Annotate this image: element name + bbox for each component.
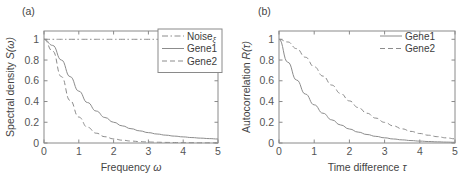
y-tick-label: 0.6 [24,74,39,86]
series-line-gene2 [279,39,455,139]
y-tick-label: 0.4 [259,95,274,107]
legend-label: Gene2 [187,56,217,67]
figure-container: (a)01234500.20.40.60.81Frequency ωSpectr… [0,0,473,177]
y-axis-label: Autocorrelation R(τ) [240,41,252,133]
x-tick-label: 2 [346,145,352,157]
y-tick-label: 0.2 [24,116,39,128]
y-tick-label: 0 [33,137,39,149]
y-tick-label: 0.8 [24,54,39,66]
y-tick-label: 0.2 [259,116,274,128]
x-tick-label: 4 [180,145,186,157]
series-line-gene1 [279,39,455,142]
x-tick-label: 0 [41,145,47,157]
legend: NoiseξGene1Gene2 [158,29,222,73]
plot-lines [279,39,455,142]
legend-label: Gene1 [187,43,217,54]
x-tick-label: 1 [311,145,317,157]
y-axis-label: Spectral density S(ω) [4,37,16,137]
x-tick-label: 4 [417,145,423,157]
panel-b: (b)01234500.20.40.60.81Time difference τ… [236,0,473,177]
x-tick-label: 3 [382,145,388,157]
panel-tag: (a) [22,5,35,17]
y-tick-label: 0 [268,137,274,149]
x-tick-label: 1 [76,145,82,157]
panel-a: (a)01234500.20.40.60.81Frequency ωSpectr… [0,0,236,177]
y-tick-label: 0.6 [259,74,274,86]
x-axis-label: Frequency ω [101,161,162,173]
x-tick-label: 2 [111,145,117,157]
legend: Gene1Gene2 [376,29,452,60]
panel-tag: (b) [258,5,271,17]
x-tick-label: 5 [452,145,458,157]
legend-label: Gene1 [405,31,435,42]
x-tick-label: 5 [215,145,221,157]
y-tick-label: 0.8 [259,54,274,66]
chart-a: (a)01234500.20.40.60.81Frequency ωSpectr… [0,0,236,177]
y-tick-label: 1 [268,33,274,45]
x-axis-label: Time difference τ [328,161,408,173]
legend-label: Gene2 [405,43,435,54]
x-tick-label: 3 [145,145,151,157]
x-tick-label: 0 [276,145,282,157]
y-tick-label: 1 [33,33,39,45]
chart-b: (b)01234500.20.40.60.81Time difference τ… [236,0,473,177]
y-tick-label: 0.4 [24,95,39,107]
